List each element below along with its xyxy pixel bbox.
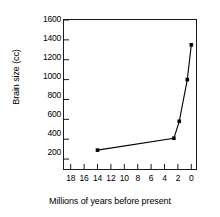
x-tick-label: 14 [93,174,102,183]
x-tick-label: 6 [149,174,154,183]
data-point-marker [185,78,189,82]
data-line [98,45,192,150]
y-tick-label: 200 [31,148,61,157]
y-tick-label: 800 [31,91,61,100]
plot-canvas [64,20,196,169]
data-point-marker [172,136,176,140]
chart-figure: 1600 1400 1200 1000 800 600 400 200 18 1… [0,0,220,217]
y-tick-label: 1400 [31,34,61,43]
y-tick-label: 1200 [31,53,61,62]
y-tick-label: 600 [31,110,61,119]
data-point-marker [177,120,181,124]
x-tick-label: 12 [106,174,115,183]
x-tick-label: 4 [162,174,167,183]
x-tick-label: 16 [80,174,89,183]
data-point-marker [96,148,100,152]
y-tick-label: 1000 [31,72,61,81]
x-tick-label: 2 [176,174,181,183]
x-tick-marks [71,164,192,169]
x-tick-label: 18 [66,174,75,183]
x-tick-label: 8 [135,174,140,183]
data-point-marker [190,43,194,47]
y-axis-tick-labels: 1600 1400 1200 1000 800 600 400 200 [28,0,61,217]
y-tick-label: 1600 [31,15,61,24]
y-tick-label: 400 [31,129,61,138]
x-tick-label: 10 [120,174,129,183]
plot-area [63,19,197,170]
x-axis-title: Millions of years before present [0,196,220,206]
x-axis-tick-labels: 18 16 14 12 10 8 6 4 2 0 [63,174,197,186]
x-tick-label: 0 [189,174,194,183]
y-tick-marks [64,20,69,159]
data-point-markers [96,43,193,152]
y-axis-title: Brain size (cc) [11,12,21,142]
